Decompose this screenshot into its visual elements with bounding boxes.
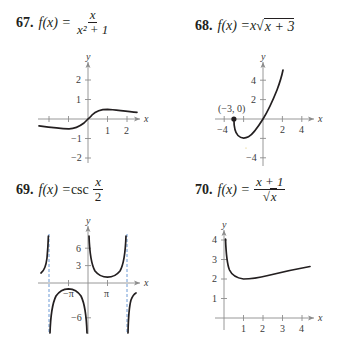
y-axis-label: y — [260, 51, 266, 62]
point-annotation: (−3, 0) — [218, 103, 245, 115]
x-tick-label: 3 — [280, 323, 285, 334]
x-tick-label: π — [104, 288, 109, 299]
y-tick-label: 6 — [76, 243, 81, 254]
y-tick-label: 2 — [76, 74, 81, 85]
y-axis-label: y — [221, 219, 227, 230]
x-axis-label: x — [317, 312, 323, 323]
y-tick-label: −4 — [246, 152, 257, 163]
y-tick-label: −6 — [71, 312, 82, 323]
endpoint-dot — [231, 116, 236, 121]
x-axis-label: x — [143, 277, 149, 288]
x-tick-label: 1 — [241, 323, 246, 334]
x-tick-label: 2 — [280, 124, 285, 135]
function-curve — [226, 239, 311, 279]
y-tick-label: 1 — [76, 94, 81, 105]
x-tick-label: 2 — [124, 125, 129, 136]
graph-70: x y 1 2 3 4 4 3 2 1 — [212, 219, 323, 334]
x-tick-label: 1 — [105, 125, 110, 136]
function-curve-branch-4 — [128, 293, 136, 333]
x-axis-label: x — [143, 113, 149, 124]
y-tick-label: 3 — [212, 254, 217, 265]
function-curve-branch-3 — [89, 236, 126, 277]
graph-67: x y 1 2 2 1 −1 −2 — [38, 51, 149, 163]
x-axis-label: x — [317, 113, 323, 124]
y-tick-label: 4 — [251, 75, 256, 86]
y-tick-label: 1 — [212, 293, 217, 304]
x-tick-label: 4 — [299, 323, 304, 334]
x-tick-label: −4 — [217, 124, 228, 135]
y-tick-label: −1 — [71, 133, 82, 144]
y-tick-label: 2 — [212, 273, 217, 284]
y-tick-label: −2 — [71, 152, 82, 163]
y-axis-label: y — [85, 215, 91, 226]
y-axis-label: y — [85, 51, 91, 62]
graphs-canvas: x y 1 2 2 1 −1 −2 x y — [0, 0, 346, 350]
y-tick-label: 4 — [212, 234, 217, 245]
y-tick-label: 3 — [76, 260, 81, 271]
graph-68: x y −4 2 4 4 2 −4 (−3, 0) — [215, 51, 323, 166]
graph-69: x y −π π 6 3 −6 — [38, 215, 149, 334]
speck — [245, 147, 246, 148]
x-tick-label: 2 — [260, 323, 265, 334]
function-curve-branch-1 — [41, 236, 48, 273]
y-tick-label: 2 — [251, 94, 256, 105]
x-tick-label: 4 — [299, 124, 304, 135]
